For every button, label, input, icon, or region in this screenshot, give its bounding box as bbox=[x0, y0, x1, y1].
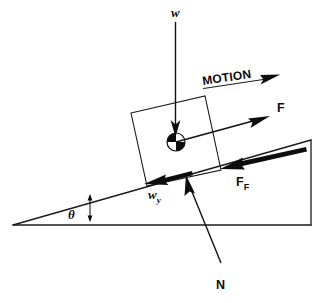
normal-label: N bbox=[216, 278, 225, 292]
com-quadrant-top-left bbox=[167, 133, 176, 142]
free-body-diagram: θ w F bbox=[0, 0, 321, 303]
angle-marker bbox=[88, 194, 93, 222]
figure-canvas: θ w F bbox=[0, 0, 321, 303]
weight-vector bbox=[171, 22, 181, 137]
weight-label: w bbox=[171, 5, 180, 20]
friction-label: FF bbox=[236, 175, 250, 192]
angle-label: θ bbox=[68, 207, 75, 222]
normal-vector bbox=[185, 175, 222, 263]
motion-annotation: MOTION bbox=[201, 63, 281, 93]
friction-vector bbox=[220, 147, 307, 170]
angle-dimension-arrow-up bbox=[88, 194, 93, 201]
weight-component-label: wy bbox=[148, 187, 162, 205]
applied-force-label: F bbox=[277, 101, 285, 115]
com-quadrant-bottom-right bbox=[176, 142, 185, 151]
friction-vector-shaft bbox=[238, 147, 308, 167]
normal-vector-arrowhead bbox=[185, 175, 196, 196]
motion-arrowhead bbox=[259, 72, 281, 84]
applied-force-vector bbox=[176, 116, 270, 142]
friction-vector-arrowhead bbox=[220, 158, 245, 170]
angle-dimension-arrow-down bbox=[88, 216, 93, 223]
